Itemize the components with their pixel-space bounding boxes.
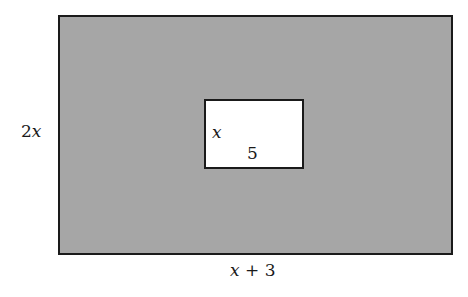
inner-height-var: x <box>212 122 222 142</box>
inner-width-label: 5 <box>247 145 258 162</box>
outer-height-coef: 2 <box>21 121 32 141</box>
nested-rectangles-figure: 2x x + 3 x 5 <box>0 0 468 297</box>
outer-width-rest: + 3 <box>240 260 276 280</box>
inner-height-label: x <box>212 124 222 141</box>
outer-height-label: 2x <box>21 123 41 140</box>
outer-width-var: x <box>230 260 240 280</box>
outer-height-var: x <box>32 121 42 141</box>
outer-width-label: x + 3 <box>230 262 275 279</box>
